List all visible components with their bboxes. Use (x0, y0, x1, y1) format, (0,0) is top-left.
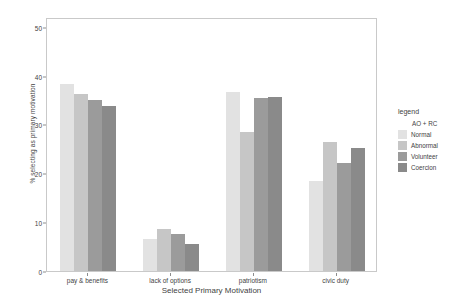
y-axis-tick-labels: 01020304050 (22, 0, 42, 305)
x-tick-label: patriotism (239, 277, 267, 284)
bar[interactable] (157, 229, 171, 271)
y-tick-label: 50 (35, 24, 42, 31)
bar[interactable] (226, 92, 240, 271)
bar[interactable] (337, 163, 351, 271)
bar[interactable] (240, 132, 254, 271)
x-tick-label: civic duty (322, 277, 349, 284)
bar[interactable] (254, 98, 268, 271)
legend-label: Abnormal (411, 142, 438, 149)
legend-swatch (398, 163, 407, 172)
bar[interactable] (60, 84, 74, 271)
x-tick-mark (336, 273, 337, 276)
y-tick-label: 40 (35, 73, 42, 80)
bar[interactable] (185, 244, 199, 271)
legend-entry[interactable]: Coercion (398, 162, 454, 173)
bar-group (143, 19, 199, 271)
legend-swatch (398, 152, 407, 161)
y-tick-label: 10 (35, 220, 42, 227)
legend-label: Normal (411, 131, 431, 138)
bar[interactable] (171, 234, 185, 271)
chart-figure: % selecting as primary motivation 010203… (0, 0, 456, 305)
legend-swatch (398, 130, 407, 139)
bar[interactable] (74, 94, 88, 271)
legend-title: legend (398, 108, 454, 115)
bar[interactable] (351, 148, 365, 271)
legend-entries: NormalAbnormalVolunteerCoercion (398, 129, 454, 173)
y-tick-label: 0 (38, 269, 42, 276)
bar-group (60, 19, 116, 271)
legend-swatch (398, 141, 407, 150)
x-tick-label: pay & benefits (67, 277, 108, 284)
legend-label: Coercion (411, 164, 436, 171)
bar[interactable] (268, 97, 282, 271)
bar[interactable] (309, 181, 323, 271)
plot-panel (46, 18, 377, 272)
bar[interactable] (143, 239, 157, 271)
x-tick-mark (253, 273, 254, 276)
bar[interactable] (88, 100, 102, 271)
bar[interactable] (323, 142, 337, 271)
bar-group (226, 19, 282, 271)
x-tick-mark (170, 273, 171, 276)
x-axis-title: Selected Primary Motivation (46, 286, 377, 295)
legend-entry[interactable]: Normal (398, 129, 454, 140)
bar-group (309, 19, 365, 271)
plot-area (47, 19, 376, 271)
y-tick-label: 20 (35, 171, 42, 178)
legend-label: Volunteer (411, 153, 438, 160)
x-tick-mark (87, 273, 88, 276)
x-tick-label: lack of options (149, 277, 191, 284)
y-tick-label: 30 (35, 122, 42, 129)
legend-entry[interactable]: Volunteer (398, 151, 454, 162)
legend-header: AO + RC (412, 120, 454, 127)
legend: legend AO + RC NormalAbnormalVolunteerCo… (398, 108, 454, 173)
bar[interactable] (102, 106, 116, 271)
legend-entry[interactable]: Abnormal (398, 140, 454, 151)
